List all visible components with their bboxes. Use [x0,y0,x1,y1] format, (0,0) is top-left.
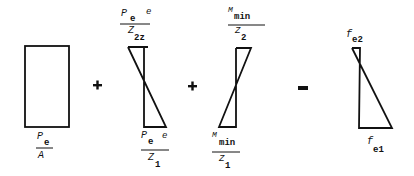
label-e2: e2 [352,35,363,45]
hourglass-shape [128,47,166,127]
label-Z: Z [234,26,241,36]
plus-operator-2 [188,82,197,91]
result-block: f e2 f e1 [346,29,392,155]
label-P: P [37,131,43,142]
label-e1: e1 [373,145,384,155]
axial-stress-block: P e A [25,46,69,161]
label-e-ecc: e [146,7,151,17]
plus-operator-1 [93,81,102,90]
label-min: min [234,12,250,22]
label-P: P [121,8,127,19]
label-e: e [44,138,49,148]
label-2: 2 [241,33,246,43]
label-Z: Z [218,154,225,164]
rectangle-shape [25,46,69,127]
prestress-moment-block: P e e Z 2z P e e Z 1 [120,7,169,170]
hourglass-reversed-shape [219,48,251,127]
label-e-ecc: e [162,131,167,141]
label-1: 1 [225,161,231,171]
label-e-sub: e [130,14,135,24]
label-e-sub: e [148,137,153,147]
stress-diagram: P e A P e e Z 2z P e e Z 1 M min Z 2 M [0,0,414,176]
label-2z: 2z [134,33,145,43]
equals-operator [298,86,308,90]
label-A: A [37,150,44,161]
label-Z: Z [147,152,155,163]
min-moment-block: M min Z 2 M min Z 1 [212,5,265,171]
label-M: M [212,130,217,139]
resultant-triangle-shape [352,48,392,128]
label-1: 1 [155,160,161,170]
label-min: min [219,138,235,148]
label-P: P [141,130,147,141]
label-M: M [228,5,233,14]
